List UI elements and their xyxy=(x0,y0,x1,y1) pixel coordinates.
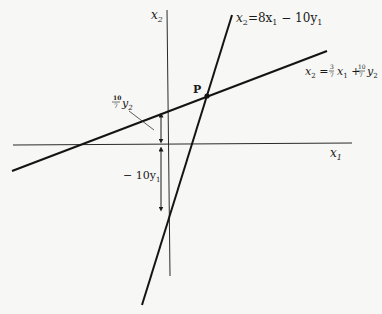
intersection-point xyxy=(204,93,209,98)
x1-axis xyxy=(13,143,352,145)
linear-equations-diagram: x2 x1 P x2=8x1 − 10y1 x2 = 3 7 x1 + 10 7… xyxy=(0,0,382,314)
svg-text:3: 3 xyxy=(330,63,334,70)
svg-text:x2 =: x2 = xyxy=(305,65,328,80)
steep-line-equation: x2=8x1 − 10y1 xyxy=(236,11,322,27)
svg-text:7: 7 xyxy=(330,71,334,78)
x2-axis-label: x2 xyxy=(151,8,163,24)
svg-text:y2: y2 xyxy=(366,65,378,80)
intercept-annotation-lower: − 10y1 xyxy=(123,169,160,184)
svg-text:y2: y2 xyxy=(121,97,133,112)
leader-line xyxy=(129,111,154,130)
shallow-line-equation: x2 = 3 7 x1 + 10 7 y2 xyxy=(305,63,378,80)
svg-text:x1 +: x1 + xyxy=(337,65,360,80)
svg-text:7: 7 xyxy=(114,102,118,109)
svg-text:10: 10 xyxy=(113,94,121,101)
shallow-constraint-line xyxy=(12,51,327,171)
svg-text:7: 7 xyxy=(359,71,363,78)
x1-axis-label: x1 xyxy=(330,146,342,162)
svg-text:10: 10 xyxy=(358,63,366,70)
steep-constraint-line xyxy=(142,15,232,305)
x2-axis xyxy=(167,10,170,276)
point-p-label: P xyxy=(193,83,201,96)
